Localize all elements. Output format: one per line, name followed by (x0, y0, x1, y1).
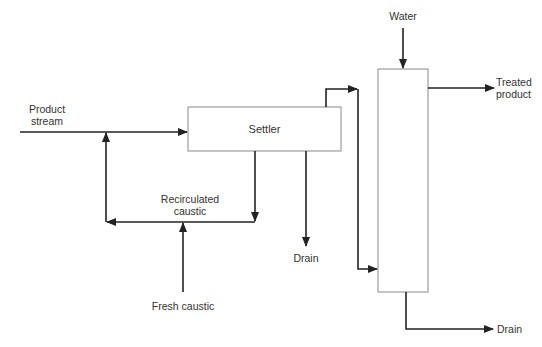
treated-product-label-line1: Treated (496, 76, 542, 88)
settler-to-column-line-b (358, 89, 377, 269)
recirculated-caustic-label-line2: caustic (150, 205, 230, 217)
recirculated-caustic-label: Recirculated caustic (150, 193, 230, 217)
treated-product-label: Treated product (496, 76, 542, 100)
product-stream-label: Product stream (22, 103, 72, 127)
settler-to-column-line-a (326, 89, 357, 107)
wash-column (378, 69, 428, 292)
column-drain-line (406, 292, 493, 329)
column-drain-label: Drain (497, 323, 537, 335)
fresh-caustic-label: Fresh caustic (148, 300, 218, 312)
product-stream-label-line2: stream (22, 115, 72, 127)
water-label: Water (383, 10, 423, 22)
settler-label: Settler (188, 123, 341, 135)
product-stream-label-line1: Product (22, 103, 72, 115)
treated-product-label-line2: product (496, 88, 542, 100)
recirculated-caustic-label-line1: Recirculated (150, 193, 230, 205)
process-flow-diagram (0, 0, 542, 347)
settler-drain-label: Drain (286, 252, 326, 264)
